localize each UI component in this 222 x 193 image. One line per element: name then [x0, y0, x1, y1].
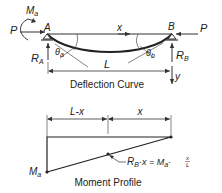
beam-diagram: x P P Ma A B RA RB y [0, 0, 222, 193]
moment-diagram: L-x x Ma RB·x = Ma· x L Moment Profile [29, 106, 190, 188]
reaction-a-label: RA [31, 52, 44, 65]
moment-equation: RB·x = Ma· [127, 156, 171, 168]
moment-end-label: Ma [29, 166, 41, 178]
angle-arc-b [136, 34, 140, 50]
fraction-denominator: L [186, 162, 189, 168]
angle-a-label: θa [55, 47, 64, 58]
reaction-b-label: RB [176, 49, 189, 62]
support-a-label: A [43, 22, 51, 33]
point-right [169, 135, 172, 138]
x-axis-label: x [116, 22, 123, 33]
support-b-label: B [168, 21, 175, 32]
load-label-left: P [10, 24, 18, 36]
load-label-right: P [200, 22, 208, 34]
fraction-numerator: x [185, 155, 190, 161]
deflection-curve [47, 34, 172, 52]
angle-b-label: θb [146, 48, 155, 59]
moment-label: Ma [26, 5, 38, 17]
deflection-caption: Deflection Curve [70, 79, 144, 90]
deflection-diagram: x P P Ma A B RA RB y [10, 5, 208, 90]
moment-caption: Moment Profile [74, 177, 142, 188]
dim-label-x: x [137, 106, 144, 117]
dim-label-l-minus-x: L-x [70, 106, 85, 117]
span-label: L [104, 58, 110, 70]
point-ma [45, 170, 48, 173]
y-axis-label: y [174, 71, 181, 82]
